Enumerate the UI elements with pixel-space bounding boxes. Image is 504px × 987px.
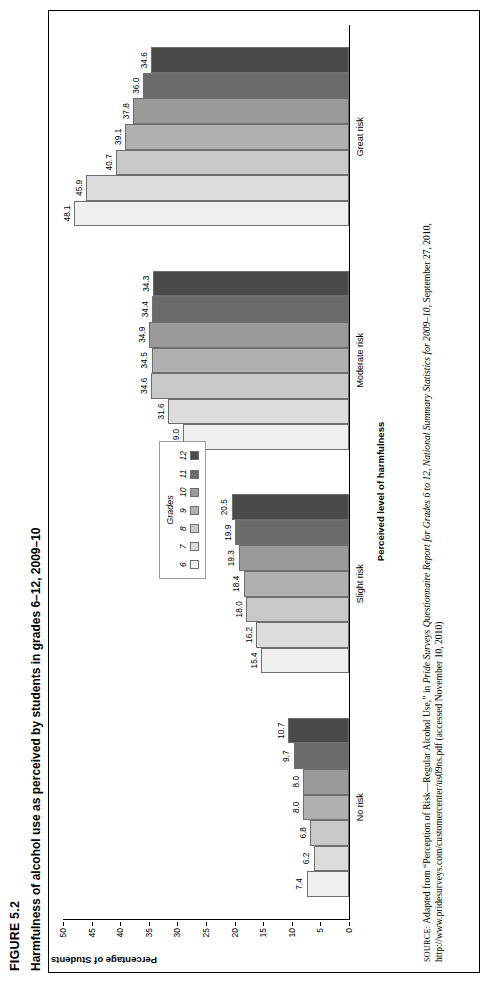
y-tick-label: 45 <box>87 928 96 937</box>
bar[interactable] <box>256 622 349 648</box>
figure-title: Harmfulness of alcohol use as perceived … <box>29 10 43 971</box>
legend-item[interactable]: 11 <box>178 470 199 479</box>
x-axis-title: Perceived level of harmfulness <box>375 11 386 972</box>
bar-value-label: 8.0 <box>292 802 300 814</box>
legend-swatch <box>190 524 199 533</box>
bar[interactable] <box>314 846 349 872</box>
plot-wrap: Percentage of Students 05101520253035404… <box>49 11 401 972</box>
bar[interactable] <box>239 546 349 572</box>
bar[interactable] <box>307 871 349 897</box>
bar-slot: 16.2 <box>63 622 349 648</box>
category-label: Moderate risk <box>355 249 365 473</box>
bar-slot: 40.7 <box>63 150 349 176</box>
bar[interactable] <box>86 175 349 201</box>
legend-item[interactable]: 12 <box>178 451 199 460</box>
legend-item-label: 9 <box>178 508 188 513</box>
bar[interactable] <box>168 399 349 425</box>
bar-slot: 18.4 <box>63 571 349 597</box>
bar-group: 15.416.218.018.419.319.920.5 <box>63 494 349 673</box>
y-tick-mark <box>263 922 264 926</box>
legend-item-label: 12 <box>178 451 188 460</box>
bar-value-label: 34.9 <box>138 327 146 343</box>
bar[interactable] <box>152 296 349 322</box>
bar-value-label: 6.2 <box>302 853 310 865</box>
bar[interactable] <box>294 743 349 769</box>
bar[interactable] <box>244 571 349 597</box>
legend-swatch <box>190 470 199 479</box>
bar-slot: 20.5 <box>63 494 349 520</box>
figure-page: FIGURE 5.2 Harmfulness of alcohol use as… <box>0 0 504 987</box>
x-axis-line <box>349 25 350 920</box>
category-label: Slight risk <box>355 472 365 696</box>
bar[interactable] <box>74 201 349 227</box>
bar[interactable] <box>261 648 349 674</box>
bar-slot: 8.0 <box>63 769 349 795</box>
bar-value-label: 10.7 <box>277 723 285 739</box>
legend-item-label: 10 <box>178 488 188 497</box>
legend-item[interactable]: 7 <box>178 542 199 551</box>
bar[interactable] <box>303 795 349 821</box>
bar-slot: 10.7 <box>63 718 349 744</box>
bar[interactable] <box>143 73 349 99</box>
bar[interactable] <box>149 322 349 348</box>
y-tick-mark <box>92 922 93 926</box>
category-label: No risk <box>355 696 365 920</box>
bar[interactable] <box>153 271 349 297</box>
legend: Grades 6789101112 <box>159 441 206 579</box>
legend-item[interactable]: 10 <box>178 488 199 497</box>
bar[interactable] <box>116 150 349 176</box>
bar[interactable] <box>288 718 349 744</box>
category-label: Great risk <box>355 25 365 249</box>
legend-swatch <box>190 506 199 515</box>
legend-item[interactable]: 9 <box>178 506 199 515</box>
y-tick-label: 20 <box>230 928 239 937</box>
bar-value-label: 34.6 <box>140 52 148 68</box>
bar[interactable] <box>152 348 349 374</box>
legend-title: Grades <box>165 451 175 569</box>
bar[interactable] <box>246 597 349 623</box>
y-axis-line <box>63 919 350 920</box>
bar[interactable] <box>125 124 349 150</box>
bar-slot: 34.6 <box>63 373 349 399</box>
bar-value-label: 34.4 <box>141 301 149 317</box>
bar-slot: 19.9 <box>63 520 349 546</box>
bar-value-label: 34.6 <box>140 378 148 394</box>
bar[interactable] <box>133 99 349 125</box>
y-tick-mark <box>177 922 178 926</box>
bar-value-label: 37.8 <box>122 103 130 119</box>
bar-slot: 19.3 <box>63 546 349 572</box>
bar[interactable] <box>310 820 349 846</box>
legend-swatch <box>190 560 199 569</box>
bar[interactable] <box>235 520 349 546</box>
bar-value-label: 20.5 <box>220 499 228 515</box>
legend-item-label: 7 <box>178 544 188 549</box>
bar[interactable] <box>151 373 349 399</box>
y-tick-mark <box>292 922 293 926</box>
source-prefix: SOURCE: <box>423 926 432 962</box>
bar[interactable] <box>303 769 349 795</box>
y-tick-label: 15 <box>259 928 268 937</box>
y-tick-mark <box>120 922 121 926</box>
legend-swatch <box>190 488 199 497</box>
bar-slot: 6.2 <box>63 846 349 872</box>
bar-value-label: 19.3 <box>227 550 235 566</box>
y-tick-mark <box>320 922 321 926</box>
legend-item[interactable]: 8 <box>178 524 199 533</box>
bar[interactable] <box>183 424 349 450</box>
bar-value-label: 34.3 <box>142 276 150 292</box>
legend-item[interactable]: 6 <box>178 560 199 569</box>
figure-number: FIGURE 5.2 <box>8 10 22 971</box>
bar-slot: 39.1 <box>63 124 349 150</box>
bar-slot: 31.6 <box>63 399 349 425</box>
bar-value-label: 16.2 <box>245 627 253 643</box>
bar-slot: 34.5 <box>63 348 349 374</box>
bar[interactable] <box>151 47 349 73</box>
bar-value-label: 6.8 <box>299 827 307 839</box>
bar-value-label: 45.9 <box>75 180 83 196</box>
bar-slot: 18.0 <box>63 597 349 623</box>
legend-swatch <box>190 542 199 551</box>
bar[interactable] <box>232 494 349 520</box>
bar-value-label: 15.4 <box>250 652 258 668</box>
bar-slot: 34.3 <box>63 271 349 297</box>
y-tick-label: 35 <box>145 928 154 937</box>
